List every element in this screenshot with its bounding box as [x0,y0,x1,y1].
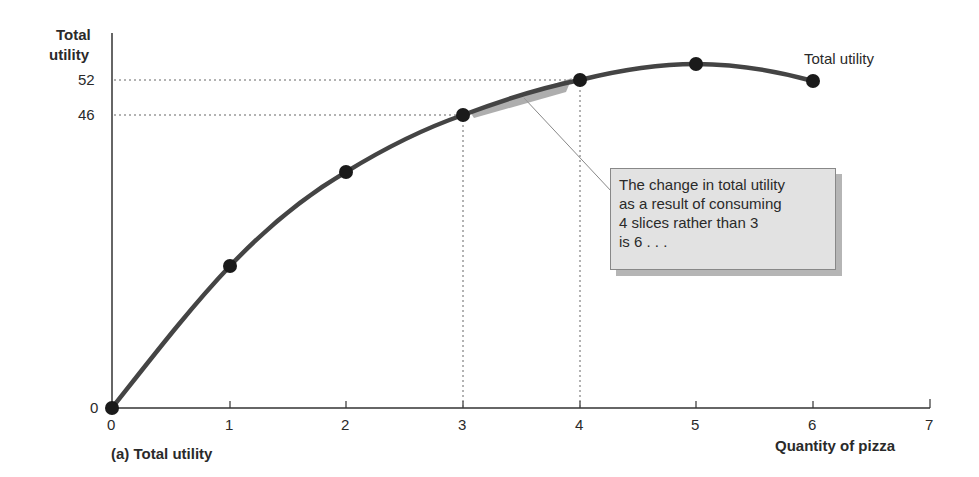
y-tick-52: 52 [78,71,95,88]
chart-caption: (a) Total utility [111,445,212,462]
callout-line-3: 4 slices rather than 3 [619,213,827,232]
x-tick-0: 0 [107,416,115,433]
callout-box: The change in total utility as a result … [610,168,836,270]
y-tick-46: 46 [78,106,95,123]
y-tick-0: 0 [90,399,98,416]
dotted-guides [114,80,580,408]
x-tick-2: 2 [341,416,349,433]
callout-pointer [524,98,612,192]
x-tick-5: 5 [691,416,699,433]
x-tick-7: 7 [925,416,933,433]
callout-line-4: is 6 . . . [619,232,827,251]
x-tick-3: 3 [458,416,466,433]
x-tick-6: 6 [808,416,816,433]
y-axis-label-line2: utility [49,46,89,63]
x-tick-4: 4 [575,416,583,433]
callout-line-1: The change in total utility [619,175,827,194]
y-axis-label-line1: Total [56,26,91,43]
x-axis-label: Quantity of pizza [775,437,895,454]
callout-line-2: as a result of consuming [619,194,827,213]
curve-label: Total utility [804,50,874,67]
x-tick-1: 1 [225,416,233,433]
